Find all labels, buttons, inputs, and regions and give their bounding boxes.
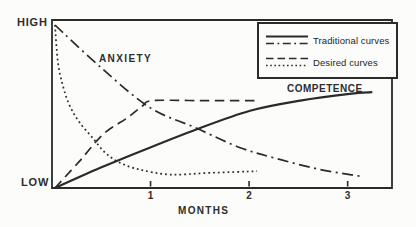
legend-sample-solid-dash-dot [265,33,309,47]
legend-item-0: Traditional curves [265,29,391,51]
y-axis-high-label: HIGH [17,17,48,28]
legend: Traditional curvesDesired curves [257,22,398,79]
legend-rows: Traditional curvesDesired curves [265,29,391,73]
legend-item-1: Desired curves [265,51,391,73]
x-tick-label-1: 1 [145,191,157,201]
x-tick-label-3: 3 [342,191,354,201]
legend-label-1: Desired curves [313,57,378,68]
anxiety-competence-chart: HIGH LOW ANXIETY COMPETENCE MONTHS 123 T… [0,0,416,227]
y-axis-low-label: LOW [21,177,49,188]
legend-label-0: Traditional curves [313,35,389,46]
curve-competence-traditional [55,92,372,188]
legend-sample-dashed-dotted [265,55,309,69]
x-tick-label-2: 2 [243,191,255,201]
x-axis-title: MONTHS [178,206,229,216]
anxiety-curve-label: ANXIETY [99,54,152,64]
competence-curve-label: COMPETENCE [287,84,363,94]
